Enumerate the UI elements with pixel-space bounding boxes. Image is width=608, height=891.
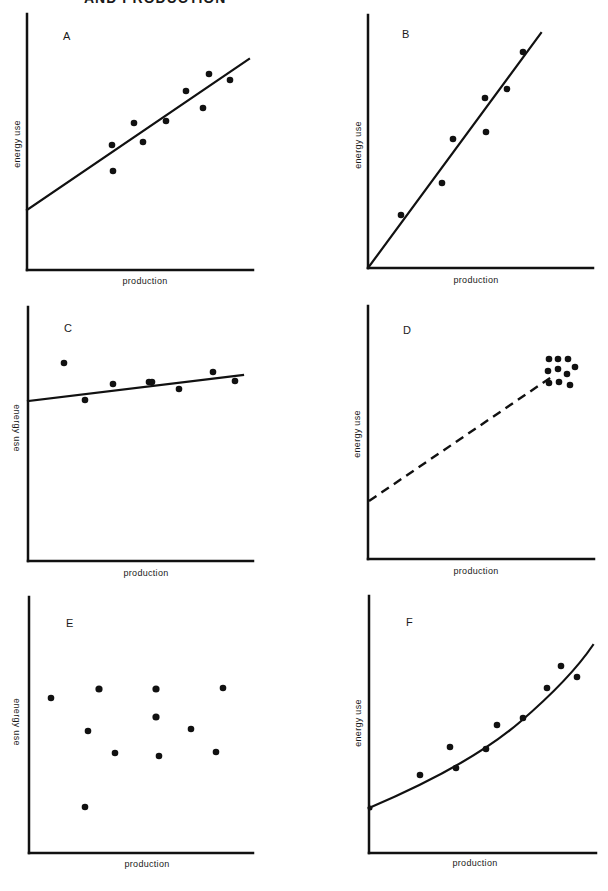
figure-title: AND PRODUCTION xyxy=(84,0,284,6)
x-axis-label-f: production xyxy=(452,858,497,868)
fit-line xyxy=(28,375,243,401)
y-axis-label-b: energy use xyxy=(353,121,363,169)
y-axis-label-d: energy use xyxy=(352,410,362,458)
data-points xyxy=(368,663,581,811)
x-axis-label-a: production xyxy=(122,276,167,286)
data-points xyxy=(545,356,579,389)
y-axis-label-a: energy use xyxy=(12,120,22,168)
panel-label-f: F xyxy=(406,616,413,628)
y-axis-label-e: energy use xyxy=(12,698,22,746)
y-axis-label-f: energy use xyxy=(353,699,363,747)
chart-canvas: A B C D E F production production produc… xyxy=(0,0,608,891)
figure: AND PRODUCTION xyxy=(0,0,608,891)
data-points xyxy=(398,49,527,219)
panel-a xyxy=(27,14,253,270)
panel-label-d: D xyxy=(403,324,411,336)
fit-line xyxy=(368,33,541,268)
x-axis-label-e: production xyxy=(124,859,169,869)
panel-label-a: A xyxy=(63,30,71,42)
panel-label-e: E xyxy=(66,617,73,629)
x-axis-label-b: production xyxy=(453,275,498,285)
data-points xyxy=(61,360,239,404)
panel-label-c: C xyxy=(64,322,72,334)
panel-f xyxy=(368,596,597,853)
x-axis-label-c: production xyxy=(123,568,168,578)
x-axis-label-d: production xyxy=(453,566,498,576)
fit-curve xyxy=(369,645,593,808)
panel-label-b: B xyxy=(402,28,409,40)
data-points xyxy=(109,71,234,175)
panel-c xyxy=(28,307,253,561)
data-points xyxy=(48,685,227,811)
fit-line-dashed xyxy=(369,376,553,501)
panel-d xyxy=(368,306,594,559)
y-axis-label-c: energy use xyxy=(12,404,22,452)
panel-e xyxy=(29,597,253,853)
fit-line xyxy=(27,59,249,210)
panel-b xyxy=(368,15,593,268)
